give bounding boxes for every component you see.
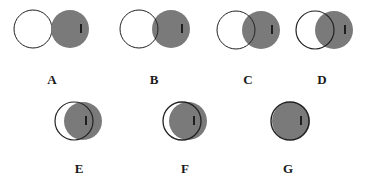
panel-label: D [317, 72, 326, 87]
gray-circle [64, 102, 102, 140]
panel-d: D [296, 11, 353, 87]
panel-g: G [270, 102, 310, 176]
slit-mark-icon [85, 116, 87, 125]
slit-mark-icon [300, 116, 302, 125]
panel-label: A [47, 72, 57, 87]
slit-mark-icon [344, 25, 346, 34]
gray-circle [51, 10, 89, 48]
panel-label: C [243, 72, 252, 87]
panel-c: C [217, 11, 280, 87]
white-circle [14, 10, 52, 48]
panel-label: F [181, 161, 189, 176]
panel-a: A [14, 10, 89, 87]
overlap-diagram: A B C D E F [0, 0, 365, 186]
panel-label: G [283, 161, 293, 176]
slit-mark-icon [80, 24, 82, 33]
panel-e: E [55, 102, 102, 176]
gray-circle [242, 11, 280, 49]
slit-mark-icon [181, 24, 183, 33]
panel-label: E [75, 161, 84, 176]
panel-label: B [150, 72, 159, 87]
panel-f: F [163, 102, 207, 176]
panel-b: B [120, 10, 190, 87]
slit-mark-icon [271, 25, 273, 34]
slit-mark-icon [193, 116, 195, 125]
